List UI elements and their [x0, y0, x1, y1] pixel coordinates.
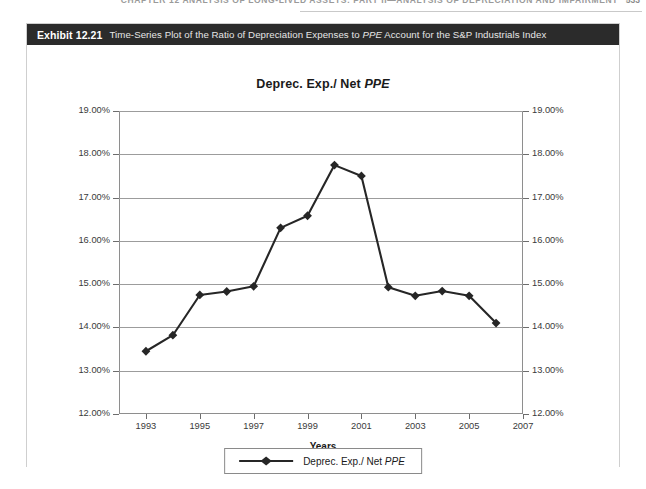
y-axis-label: 17.00% [532, 192, 564, 202]
x-axis-label: 2003 [405, 421, 426, 431]
x-axis-tick [200, 414, 201, 419]
y-axis-tick [523, 111, 529, 112]
x-axis-label: 2007 [513, 421, 534, 431]
chart-title-italic: PPE [364, 77, 389, 91]
y-axis-tick [523, 241, 529, 242]
y-axis-label: 14.00% [78, 321, 110, 331]
legend-label-italic: PPE [385, 456, 405, 467]
data-point-marker[interactable] [357, 172, 366, 181]
data-point-marker[interactable] [303, 211, 312, 220]
chart-title-plain: Deprec. Exp./ Net [256, 77, 364, 91]
legend-diamond-icon [261, 456, 272, 465]
chart-legend: Deprec. Exp./ Net PPE [224, 448, 422, 474]
exhibit-title-bar: Exhibit 12.21 Time-Series Plot of the Ra… [27, 24, 619, 45]
x-axis-label: 1999 [297, 421, 318, 431]
x-axis-tick [254, 414, 255, 419]
x-axis-label: 2001 [351, 421, 372, 431]
page-number: 533 [626, 0, 640, 5]
y-axis-label: 15.00% [78, 278, 110, 288]
y-axis-tick [523, 371, 529, 372]
y-axis-label: 19.00% [78, 105, 110, 115]
x-axis-label: 1993 [136, 421, 157, 431]
y-axis-label: 14.00% [532, 321, 564, 331]
y-axis-label: 13.00% [532, 365, 564, 375]
x-axis-tick [523, 414, 524, 419]
legend-label: Deprec. Exp./ Net PPE [303, 456, 405, 467]
legend-marker-icon [239, 455, 293, 467]
running-header-text: CHAPTER 12 ANALYSIS OF LONG-LIVED ASSETS… [121, 0, 618, 5]
y-axis-label: 16.00% [532, 235, 564, 245]
exhibit-caption: Time-Series Plot of the Ratio of Depreci… [110, 29, 547, 40]
chart-title: Deprec. Exp./ Net PPE [27, 77, 619, 91]
series-layer [119, 111, 523, 414]
x-axis-tick [308, 414, 309, 419]
exhibit-caption-part2: Account for the S&P Industrials Index [382, 29, 546, 40]
x-axis-label: 1997 [243, 421, 264, 431]
data-point-marker[interactable] [411, 291, 420, 300]
data-point-marker[interactable] [330, 161, 339, 170]
x-axis-tick [361, 414, 362, 419]
data-point-marker[interactable] [276, 223, 285, 232]
x-axis-label: 2005 [459, 421, 480, 431]
y-axis-tick [113, 414, 119, 415]
header-rule [300, 11, 642, 12]
data-point-marker[interactable] [249, 282, 258, 291]
x-axis-tick [415, 414, 416, 419]
y-axis-label: 12.00% [532, 408, 564, 418]
y-axis-label: 12.00% [78, 408, 110, 418]
x-axis-tick [146, 414, 147, 419]
y-axis-label: 19.00% [532, 105, 564, 115]
exhibit-caption-part1: Time-Series Plot of the Ratio of Depreci… [110, 29, 363, 40]
data-point-marker[interactable] [142, 347, 151, 356]
y-axis-tick [523, 154, 529, 155]
exhibit-caption-italic: PPE [362, 29, 382, 40]
series-line [146, 165, 496, 351]
y-axis-tick [523, 284, 529, 285]
y-axis-label: 15.00% [532, 278, 564, 288]
plot-area: 12.00%13.00%14.00%15.00%16.00%17.00%18.0… [119, 111, 523, 414]
y-axis-label: 18.00% [78, 148, 110, 158]
data-point-marker[interactable] [438, 287, 447, 296]
legend-label-plain: Deprec. Exp./ Net [303, 456, 385, 467]
y-axis-label: 18.00% [532, 148, 564, 158]
x-axis-tick [469, 414, 470, 419]
y-axis-label: 13.00% [78, 365, 110, 375]
data-point-marker[interactable] [222, 287, 231, 296]
y-axis-tick [523, 327, 529, 328]
x-axis-label: 1995 [189, 421, 210, 431]
y-axis-label: 16.00% [78, 235, 110, 245]
chart-body: Deprec. Exp./ Net PPE 12.00%13.00%14.00%… [27, 45, 619, 467]
exhibit-panel: Exhibit 12.21 Time-Series Plot of the Ra… [26, 23, 620, 467]
y-axis-label: 17.00% [78, 192, 110, 202]
running-header: CHAPTER 12 ANALYSIS OF LONG-LIVED ASSETS… [0, 0, 646, 13]
y-axis-tick [523, 198, 529, 199]
data-point-marker[interactable] [384, 283, 393, 292]
exhibit-number: Exhibit 12.21 [37, 29, 103, 41]
